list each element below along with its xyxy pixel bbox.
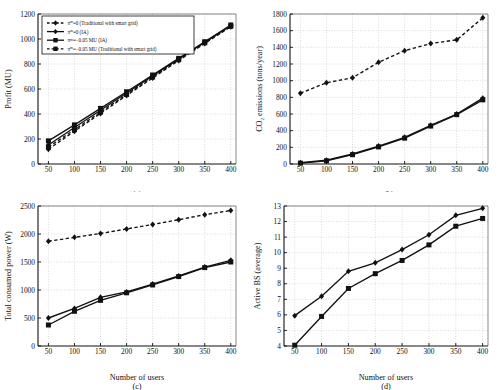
data-point-marker [124, 92, 129, 97]
y-tick-label: 1500 [20, 258, 35, 267]
data-point-marker [176, 57, 181, 62]
data-point-marker [53, 47, 57, 51]
data-point-marker [72, 122, 77, 127]
panel-c: 5010015020025030035040005001000150020002… [0, 192, 250, 390]
data-point-marker [72, 127, 77, 132]
data-point-marker [72, 309, 77, 314]
x-axis-label: Number of users [359, 373, 414, 382]
y-tick-label: 12 [274, 217, 282, 226]
x-tick-label: 150 [95, 347, 106, 356]
y-tick-label: 5 [277, 326, 281, 335]
x-tick-label: 150 [343, 347, 354, 356]
y-tick-label: 0 [283, 160, 287, 169]
data-point-marker [426, 242, 431, 247]
panel-caption-d: (d) [381, 382, 391, 390]
y-tick-label: 200 [276, 143, 287, 152]
y-tick-label: 400 [24, 110, 35, 119]
data-point-marker [376, 144, 381, 149]
data-point-marker [46, 323, 51, 328]
data-point-marker [124, 290, 129, 295]
y-tick-label: 1800 [272, 10, 287, 19]
x-tick-label: 350 [451, 165, 462, 174]
data-point-marker [53, 38, 57, 42]
y-tick-label: 1000 [272, 76, 287, 85]
x-tick-label: 200 [370, 347, 381, 356]
data-point-marker [480, 216, 485, 221]
data-point-marker [46, 138, 51, 143]
y-tick-label: 7 [277, 295, 281, 304]
y-tick-label: 0 [31, 342, 35, 351]
x-tick-label: 50 [291, 347, 299, 356]
y-axis-label: Total consumed power (W) [4, 231, 13, 321]
data-point-marker [150, 75, 155, 80]
x-tick-label: 150 [347, 165, 358, 174]
y-tick-label: 10 [274, 248, 282, 257]
legend-label-3: πm=−0.05 MU (IA) [68, 37, 108, 44]
data-point-marker [98, 298, 103, 303]
panel-b: 5010015020025030035040002004006008001000… [250, 0, 500, 198]
y-tick-label: 11 [274, 233, 281, 242]
legend: πm=0 (Traditional with smart grid)πm=0 (… [42, 16, 194, 54]
x-tick-label: 300 [173, 165, 184, 174]
y-tick-label: 1600 [272, 26, 287, 35]
data-point-marker [150, 282, 155, 287]
data-point-marker [453, 224, 458, 229]
y-tick-label: 500 [24, 314, 35, 323]
x-tick-label: 250 [399, 165, 410, 174]
figure-container: 5010015020025030035040002004006008001000… [0, 0, 500, 390]
x-tick-label: 50 [297, 165, 305, 174]
y-tick-label: 400 [276, 126, 287, 135]
x-tick-label: 100 [69, 165, 80, 174]
data-point-marker [324, 158, 329, 163]
x-tick-label: 400 [225, 347, 236, 356]
y-tick-label: 0 [31, 160, 35, 169]
data-point-marker [202, 40, 207, 45]
y-tick-label: 600 [276, 110, 287, 119]
data-point-marker [402, 136, 407, 141]
x-tick-label: 100 [321, 165, 332, 174]
y-tick-label: 13 [274, 202, 282, 211]
data-point-marker [98, 110, 103, 115]
data-point-marker [46, 145, 51, 150]
data-point-marker [428, 124, 433, 129]
x-axis-label: Number of users [110, 373, 165, 382]
x-tick-label: 400 [477, 165, 488, 174]
y-tick-label: 200 [24, 135, 35, 144]
data-point-marker [454, 112, 459, 117]
y-tick-label: 600 [24, 85, 35, 94]
x-tick-label: 200 [121, 165, 132, 174]
x-tick-label: 100 [316, 347, 327, 356]
y-tick-label: 9 [277, 264, 281, 273]
y-tick-label: 8 [277, 279, 281, 288]
data-point-marker [202, 265, 207, 270]
data-point-marker [346, 286, 351, 291]
data-point-marker [228, 260, 233, 265]
x-tick-label: 100 [69, 347, 80, 356]
x-tick-label: 400 [225, 165, 236, 174]
data-point-marker [319, 314, 324, 319]
y-tick-label: 1400 [272, 43, 287, 52]
x-tick-label: 200 [373, 165, 384, 174]
data-point-marker [292, 343, 297, 348]
y-tick-label: 800 [276, 93, 287, 102]
y-axis-label: CO2 emissions (tons/year) [255, 46, 265, 132]
x-tick-label: 300 [425, 165, 436, 174]
x-tick-label: 150 [95, 165, 106, 174]
data-point-marker [298, 161, 303, 166]
y-tick-label: 800 [24, 60, 35, 69]
panel-caption-c: (c) [132, 382, 141, 390]
x-tick-label: 250 [147, 347, 158, 356]
legend-label-4: πm=−0.05 MU (Traditional with smart grid… [68, 46, 157, 53]
y-tick-label: 1000 [20, 35, 35, 44]
y-tick-label: 1000 [20, 286, 35, 295]
x-tick-label: 350 [199, 347, 210, 356]
legend-label-1: πm=0 (Traditional with smart grid) [68, 20, 139, 27]
y-tick-label: 4 [277, 342, 281, 351]
x-tick-label: 50 [45, 165, 53, 174]
y-axis-label: Active BS (average) [253, 242, 262, 309]
panel-d: 5010015020025030035040045678910111213Act… [250, 192, 500, 390]
y-axis-label: Profit (MU) [4, 69, 13, 109]
y-tick-label: 1200 [272, 60, 287, 69]
data-point-marker [400, 258, 405, 263]
x-tick-label: 50 [45, 347, 53, 356]
